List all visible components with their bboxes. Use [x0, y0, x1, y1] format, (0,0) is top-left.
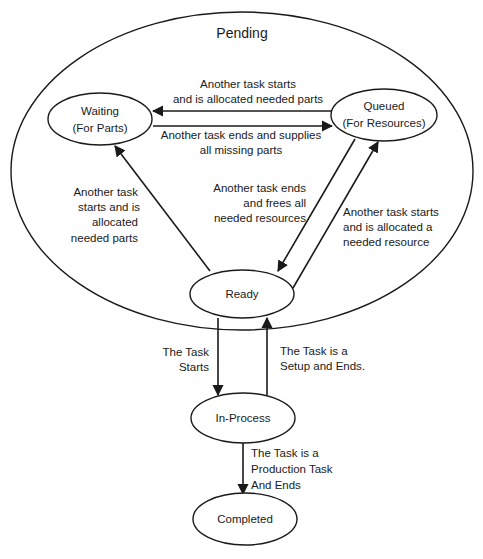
state-in-process: In-Process: [191, 393, 295, 443]
svg-text:starts and is: starts and is: [78, 201, 140, 213]
state-queued-label: Queued: [364, 100, 405, 112]
svg-text:needed parts: needed parts: [71, 232, 138, 244]
svg-text:Another task ends: Another task ends: [213, 182, 306, 194]
svg-text:Another task: Another task: [73, 186, 138, 198]
state-waiting-label: Waiting: [81, 105, 119, 117]
state-queued: Queued (For Resources): [331, 89, 437, 141]
svg-text:needed resources: needed resources: [214, 212, 306, 224]
transition-label-ready-to-in-process: The Task Starts: [163, 346, 210, 373]
transition-label-in-process-to-ready: The Task is a Setup and Ends.: [280, 345, 365, 372]
svg-text:Another task starts: Another task starts: [343, 206, 439, 218]
state-diagram: Pending Waiting (For Parts) Queued (For …: [0, 0, 483, 559]
transition-label-queued-to-ready: Another task ends and frees all needed r…: [213, 182, 306, 224]
svg-text:needed resource: needed resource: [343, 236, 429, 248]
state-ready: Ready: [190, 270, 294, 318]
state-ready-label: Ready: [225, 288, 258, 300]
transition-label-queued-to-waiting: Another task starts and is allocated nee…: [173, 78, 323, 105]
svg-text:The Task is a: The Task is a: [280, 345, 348, 357]
transition-label-waiting-to-queued: Another task ends and supplies all missi…: [161, 129, 322, 156]
transition-label-ready-to-queued: Another task starts and is allocated a n…: [343, 206, 439, 248]
svg-text:The Task: The Task: [163, 346, 210, 358]
state-queued-sublabel: (For Resources): [342, 117, 425, 129]
svg-text:and frees all: and frees all: [243, 197, 306, 209]
pending-label: Pending: [216, 25, 267, 41]
svg-text:And Ends: And Ends: [251, 479, 301, 491]
state-completed: Completed: [193, 493, 297, 545]
state-completed-label: Completed: [217, 513, 273, 525]
svg-text:Production Task: Production Task: [251, 463, 333, 475]
svg-text:allocated: allocated: [92, 216, 138, 228]
svg-text:Another task starts: Another task starts: [200, 78, 296, 90]
transition-label-ready-to-waiting: Another task starts and is allocated nee…: [71, 186, 140, 244]
transition-label-in-process-to-completed: The Task is a Production Task And Ends: [251, 447, 333, 491]
svg-text:Setup and Ends.: Setup and Ends.: [280, 360, 365, 372]
svg-text:Starts: Starts: [179, 361, 209, 373]
svg-text:all missing parts: all missing parts: [200, 144, 283, 156]
svg-text:and is allocated needed parts: and is allocated needed parts: [173, 93, 323, 105]
state-waiting: Waiting (For Parts): [48, 93, 152, 145]
state-in-process-label: In-Process: [216, 412, 271, 424]
svg-text:and is allocated a: and is allocated a: [343, 221, 433, 233]
svg-text:Another task ends and supplies: Another task ends and supplies: [161, 129, 322, 141]
svg-text:The Task is a: The Task is a: [251, 447, 319, 459]
state-waiting-sublabel: (For Parts): [73, 122, 128, 134]
